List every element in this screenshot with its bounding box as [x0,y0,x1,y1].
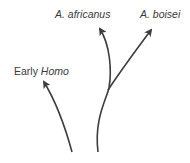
branch-africanus [97,29,110,152]
label-homo-genus: Homo [41,65,69,77]
label-a-africanus: A. africanus [55,9,110,20]
label-a-boisei: A. boisei [140,9,180,20]
phylogeny-diagram: A. africanus A. boisei Early Homo [0,0,190,163]
branch-early-homo [44,82,72,152]
label-early-prefix: Early [14,65,41,77]
branch-lines [0,0,190,163]
label-early-homo: Early Homo [14,66,69,77]
branch-boisei [108,30,151,90]
